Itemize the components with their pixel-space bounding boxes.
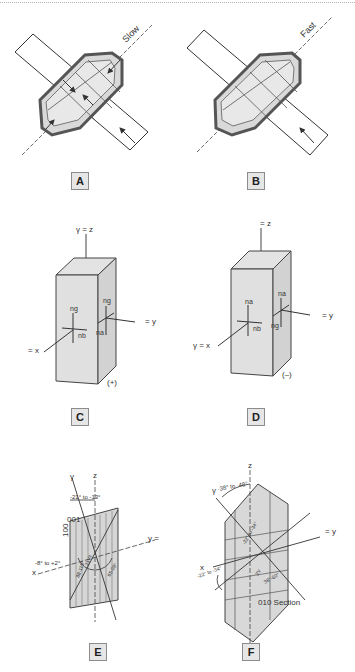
panel-d-sign: (–) — [282, 370, 292, 379]
panel-c-sign: (+) — [107, 378, 117, 387]
panel-label-f: F — [242, 643, 260, 661]
panel-e-y-label: y = — [148, 534, 159, 543]
panel-d-right-axis: = y — [322, 311, 333, 320]
panel-d-n-top-side: na — [278, 290, 286, 297]
panel-label-d: D — [247, 408, 265, 426]
panel-d-n-top-front: na — [245, 298, 253, 305]
panel-label-e: E — [89, 643, 107, 661]
panel-label-a: A — [71, 172, 89, 190]
panel-d-left-axis: γ = x — [193, 341, 210, 350]
panel-b-direction-label: Fast — [298, 20, 318, 40]
panel-c-top-axis: γ = z — [76, 225, 93, 234]
panel-e-drawing: z γ -21° to -13° 001 100 y = x -8° to +2… — [32, 471, 159, 622]
panel-label-b: B — [247, 172, 265, 190]
panel-a-drawing: Slow — [15, 23, 152, 155]
panel-e-face-001: 001 — [67, 515, 81, 524]
panel-f-top-angle: -38° to -48° — [217, 481, 249, 492]
panel-e-top-angle: -21° to -13° — [70, 494, 101, 500]
panel-e-face-100: 100 — [61, 523, 70, 537]
panel-b-drawing: Fast — [187, 17, 332, 155]
figure-canvas: Slow Fast γ = z = x = y ng nb ng na (+) — [0, 0, 355, 672]
panel-label-c: C — [71, 408, 89, 426]
panel-c-left-axis: = x — [28, 346, 39, 355]
panel-c-n-top-side: ng — [103, 297, 111, 305]
panel-d-top-axis: = z — [260, 219, 271, 228]
panel-e-gamma-label: γ — [70, 472, 74, 481]
panel-d-drawing: = z γ = x = y na nb na ng (–) — [193, 219, 333, 379]
panel-c-drawing: γ = z = x = y ng nb ng na (+) — [28, 225, 156, 387]
panel-d-n-left-side: ng — [271, 322, 279, 330]
panel-e-x-angle: -8° to +2° — [35, 560, 61, 566]
panel-f-gamma-label: γ — [212, 486, 216, 495]
panel-c-n-top-front: ng — [70, 305, 78, 313]
panel-f-section-label: 010 Section — [258, 598, 300, 607]
panel-f-y-label: = y — [325, 527, 336, 536]
panel-e-z-label: z — [93, 471, 97, 480]
panel-d-n-right-front: nb — [253, 325, 261, 332]
panel-f-z-label: z — [248, 461, 252, 470]
panel-c-n-right-front: nb — [78, 332, 86, 339]
panel-e-x-label: x — [32, 568, 36, 577]
panel-c-right-axis: = y — [145, 317, 156, 326]
panel-a-direction-label: Slow — [120, 23, 141, 44]
panel-c-n-left-side: na — [96, 329, 104, 336]
panel-f-drawing: z γ -38° to -48° = y x -22° to -34° -22°… — [196, 461, 336, 658]
